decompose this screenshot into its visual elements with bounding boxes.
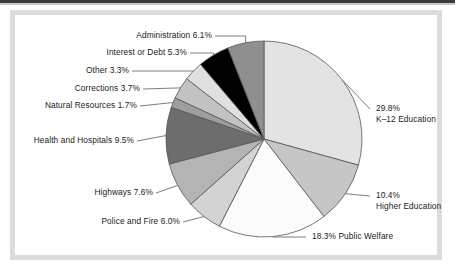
callout-k12-name: K–12 Education xyxy=(376,114,436,125)
callout-health-and-hospitals: Health and Hospitals 9.5% xyxy=(34,135,134,146)
leader-corrections xyxy=(143,88,180,89)
callout-natural-resources: Natural Resources 1.7% xyxy=(45,100,137,111)
callout-public-welfare: 18.3% Public Welfare xyxy=(312,231,393,242)
leader-highways xyxy=(156,185,178,193)
callout-higher-education-name: Higher Education xyxy=(376,201,441,212)
leader-interest-or-debt xyxy=(190,53,214,55)
callout-other: Other 3.3% xyxy=(86,65,129,76)
callout-interest-or-debt: Interest or Debt 5.3% xyxy=(107,47,188,58)
callout-k12-pct: 29.8% xyxy=(376,103,400,114)
pie-slices-group xyxy=(166,41,362,237)
leader-police-and-fire xyxy=(183,217,204,223)
callout-corrections: Corrections 3.7% xyxy=(75,83,140,94)
leader-higher-education xyxy=(345,194,370,196)
callout-administration: Administration 6.1% xyxy=(136,30,212,41)
top-divider-rule-shadow xyxy=(0,3,455,5)
callout-highways: Highways 7.6% xyxy=(95,187,153,198)
leader-natural-resources xyxy=(140,103,173,107)
figure-root: Administration 6.1% Interest or Debt 5.3… xyxy=(0,0,455,271)
figure-frame: Administration 6.1% Interest or Debt 5.3… xyxy=(10,10,442,260)
leader-health-and-hospitals xyxy=(137,136,166,142)
leader-administration xyxy=(215,36,246,43)
figure-inner: Administration 6.1% Interest or Debt 5.3… xyxy=(15,15,437,255)
callout-police-and-fire: Police and Fire 6.0% xyxy=(101,216,180,227)
callout-higher-education-pct: 10.4% xyxy=(376,190,400,201)
